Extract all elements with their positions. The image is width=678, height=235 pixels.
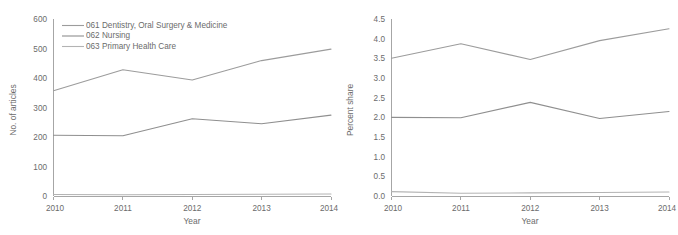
- left-y-tick-300: 300: [33, 104, 47, 113]
- left-y-tick-400: 400: [33, 74, 47, 83]
- right-y-tick-4-0: 4.0: [374, 35, 386, 44]
- legend-label-062: 062 Nursing: [86, 31, 131, 40]
- right-y-tick-2-5: 2.5: [374, 94, 386, 103]
- right-y-tick-2-0: 2.0: [374, 113, 386, 122]
- left-series-line-063: [54, 194, 332, 195]
- right-x-tick-2010: 2010: [384, 204, 403, 213]
- left-y-axis-title: No. of articles: [8, 84, 18, 135]
- right-series-line-063: [392, 192, 670, 194]
- right-x-tick-2013: 2013: [590, 204, 609, 213]
- legend: 061 Dentistry, Oral Surgery & Medicine 0…: [62, 21, 228, 51]
- left-chart-svg: No. of articles 600 500 400 300 200 100 …: [0, 0, 339, 235]
- right-y-tick-0-0: 0.0: [374, 192, 386, 201]
- left-x-tick-2010: 2010: [46, 204, 65, 213]
- left-y-tick-500: 500: [33, 45, 47, 54]
- left-y-tick-600: 600: [33, 15, 47, 24]
- left-y-tick-0: 0: [42, 192, 47, 201]
- figure-two-line-charts: No. of articles 600 500 400 300 200 100 …: [0, 0, 678, 235]
- right-y-tick-4-5: 4.5: [374, 15, 386, 24]
- left-series-line-062: [54, 115, 332, 136]
- right-x-tick-2012: 2012: [521, 204, 540, 213]
- left-y-tick-100: 100: [33, 163, 47, 172]
- right-x-tick-2014: 2014: [658, 204, 677, 213]
- legend-label-063: 063 Primary Health Care: [86, 42, 177, 51]
- right-y-axis-title: Percent share: [345, 84, 355, 136]
- right-series-line-061: [392, 29, 670, 60]
- right-y-tick-1-5: 1.5: [374, 133, 386, 142]
- left-x-tick-2013: 2013: [252, 204, 271, 213]
- left-x-tick-2014: 2014: [320, 204, 339, 213]
- right-y-tick-1-0: 1.0: [374, 153, 386, 162]
- right-x-axis-title: Year: [522, 216, 539, 226]
- left-x-tick-2012: 2012: [183, 204, 202, 213]
- chart-panel-percent-share: Percent share 4.5 4.0 3.5 3.0 2.5 2.0 1.…: [339, 0, 678, 235]
- right-y-tick-0-5: 0.5: [374, 172, 386, 181]
- right-chart-svg: Percent share 4.5 4.0 3.5 3.0 2.5 2.0 1.…: [339, 0, 678, 235]
- left-series-line-061: [54, 49, 332, 91]
- left-y-tick-200: 200: [33, 133, 47, 142]
- right-y-tick-3-0: 3.0: [374, 74, 386, 83]
- right-series-line-062: [392, 102, 670, 118]
- right-x-tick-2011: 2011: [452, 204, 470, 213]
- left-x-axis-title: Year: [184, 216, 201, 226]
- right-y-tick-3-5: 3.5: [374, 54, 386, 63]
- chart-panel-no-of-articles: No. of articles 600 500 400 300 200 100 …: [0, 0, 339, 235]
- legend-label-061: 061 Dentistry, Oral Surgery & Medicine: [86, 21, 228, 30]
- left-x-tick-2011: 2011: [114, 204, 132, 213]
